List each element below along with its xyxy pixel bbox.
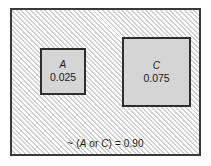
annotation-term-c: C bbox=[101, 138, 108, 149]
event-a-probability: 0.025 bbox=[50, 71, 76, 84]
event-c-label: C bbox=[153, 60, 160, 72]
event-box-a: A 0.025 bbox=[40, 48, 86, 95]
complement-probability-annotation: ~ (A or C) = 0.90 bbox=[12, 138, 199, 149]
annotation-term-a: A bbox=[80, 138, 87, 149]
annotation-negation-symbol: ~ bbox=[67, 138, 73, 149]
event-c-probability: 0.075 bbox=[144, 72, 170, 85]
event-a-label: A bbox=[60, 59, 67, 71]
probability-venn-diagram: A 0.025 C 0.075 ~ (A or C) = 0.90 bbox=[0, 0, 211, 166]
sample-space-rectangle: A 0.025 C 0.075 ~ (A or C) = 0.90 bbox=[10, 8, 201, 156]
annotation-value: 0.90 bbox=[124, 138, 144, 149]
annotation-close-paren: ) bbox=[109, 138, 112, 149]
annotation-equals-sign: = bbox=[115, 138, 121, 149]
event-box-c: C 0.075 bbox=[122, 37, 191, 107]
annotation-operator: or bbox=[89, 138, 98, 149]
